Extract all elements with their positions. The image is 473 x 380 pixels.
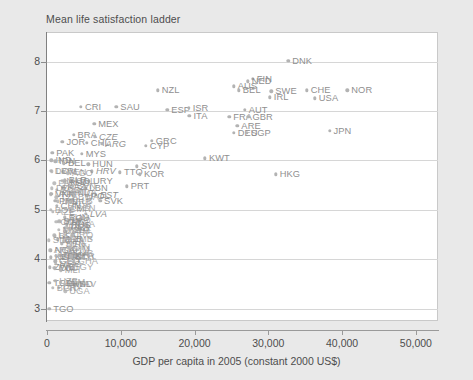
y-tick-label-3: 3 [14,302,40,314]
gridline-y-7 [47,111,438,112]
gridline-y-3 [47,309,438,310]
y-tick-label-8: 8 [14,55,40,67]
x-tick-label-50000: 50,000 [400,337,432,349]
x-tick-label-30000: 30,000 [252,337,284,349]
x-tick-label-20000: 20,000 [178,337,210,349]
y-tick-mark-7 [41,111,47,112]
x-axis-line [46,330,439,331]
y-tick-label-6: 6 [14,153,40,165]
gridline-y-8 [47,62,438,63]
x-tick-label-10000: 10,000 [105,337,137,349]
x-axis-title: GDP per capita in 2005 (constant 2000 US… [0,355,473,367]
x-tick-mark-40000 [342,330,343,335]
gridline-y-4 [47,259,438,260]
x-tick-label-0: 0 [44,337,50,349]
y-tick-label-5: 5 [14,203,40,215]
y-tick-mark-8 [41,62,47,63]
x-tick-mark-0 [47,330,48,335]
x-tick-mark-10000 [121,330,122,335]
x-tick-mark-30000 [268,330,269,335]
chart-title: Mean life satisfaction ladder [46,13,181,25]
plot-area [47,32,438,321]
gridline-y-6 [47,160,438,161]
y-tick-label-4: 4 [14,252,40,264]
y-tick-mark-3 [41,309,47,310]
x-tick-mark-20000 [195,330,196,335]
scatter-chart: Mean life satisfaction ladder 345678 010… [0,0,473,380]
y-tick-mark-6 [41,160,47,161]
y-tick-label-7: 7 [14,104,40,116]
y-tick-mark-5 [41,210,47,211]
y-axis-line [46,32,47,322]
x-tick-label-40000: 40,000 [326,337,358,349]
x-tick-mark-50000 [416,330,417,335]
y-tick-mark-4 [41,259,47,260]
gridline-y-5 [47,210,438,211]
